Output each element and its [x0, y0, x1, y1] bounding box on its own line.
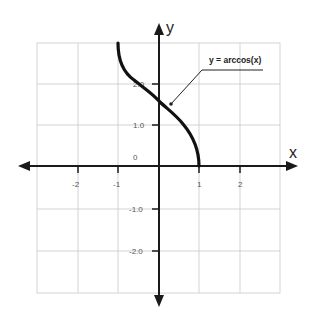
y-axis-arrow-up-icon [154, 23, 164, 35]
x-axis-arrow-right-icon [286, 161, 298, 171]
svg-text:2: 2 [238, 180, 243, 189]
svg-text:1: 1 [197, 180, 202, 189]
y-tick-labels: 2.0 1.0 -1.0 -2.0 [129, 80, 145, 256]
x-axis-label: x [289, 144, 297, 161]
x-axis-arrow-left-icon [18, 161, 30, 171]
curve-annotation: y = arccos(x) [169, 55, 263, 106]
origin-label: 0 [133, 153, 138, 162]
svg-text:-1.0: -1.0 [129, 205, 143, 214]
svg-text:-2.0: -2.0 [129, 247, 143, 256]
annotation-dot-icon [169, 102, 173, 106]
svg-text:-1: -1 [113, 180, 121, 189]
y-axis-arrow-down-icon [154, 295, 164, 307]
arccos-chart: x y -2 -1 1 2 0 2.0 1.0 -1.0 -2.0 y = ar… [0, 0, 312, 320]
x-tick-labels: -2 -1 1 2 [72, 180, 243, 189]
svg-text:-2: -2 [72, 180, 80, 189]
y-axis-label: y [166, 19, 174, 36]
curve-label: y = arccos(x) [209, 55, 261, 65]
svg-text:1.0: 1.0 [133, 121, 145, 130]
